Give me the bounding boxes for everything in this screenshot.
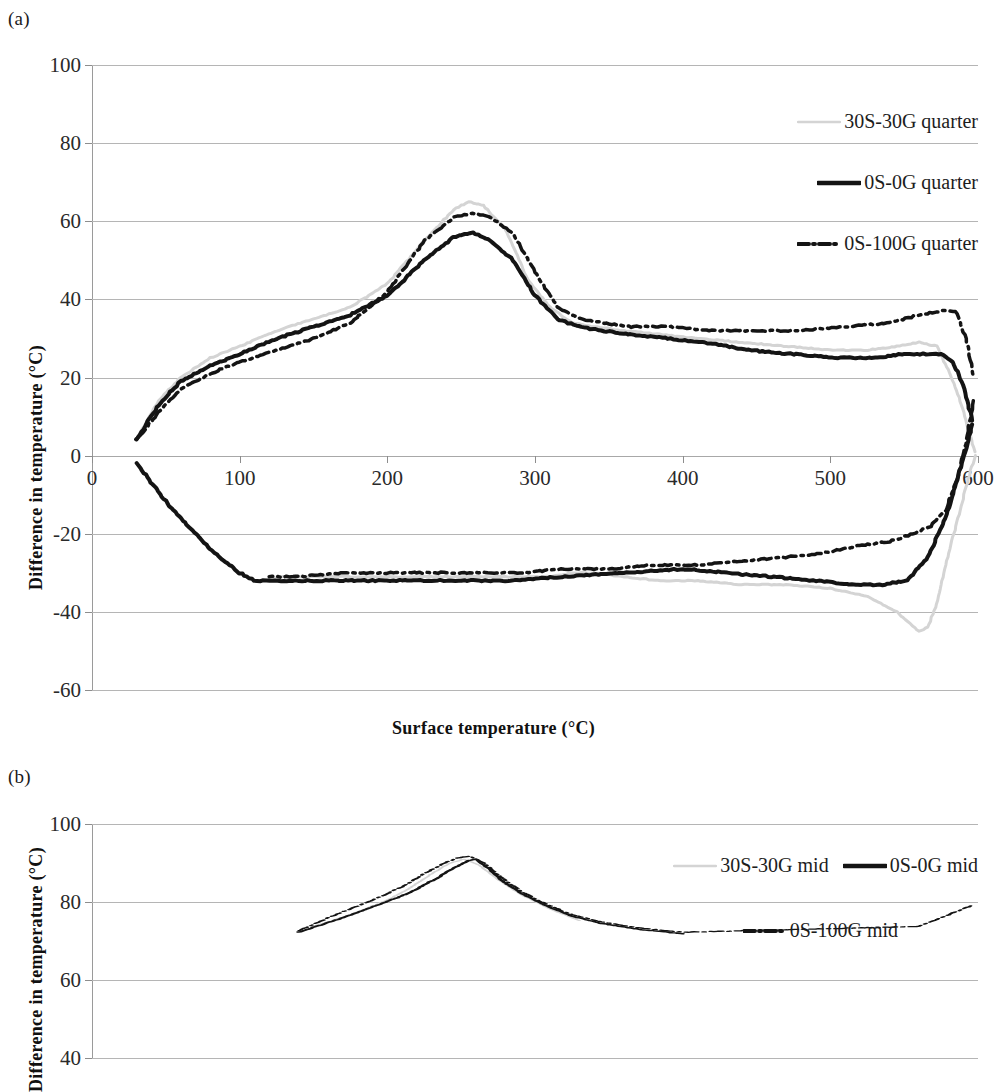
chart-panel-b: Difference in temperature (°C) 100806040… [0,792,987,1058]
y-tick-label: 60 [60,209,81,234]
y-tick-mark [85,221,92,222]
legend-label: 0S-100G mid [790,919,898,942]
y-tick-label: 80 [60,890,81,915]
y-tick-mark [85,456,92,457]
legend-row: 0S-100G quarter [797,232,978,255]
y-tick-mark [85,1058,92,1059]
y-tick-label: -40 [53,599,81,624]
legend-row: 30S-30G mid0S-0G mid [673,854,978,877]
y-tick-label: -60 [53,678,81,703]
y-tick-label: -20 [53,521,81,546]
legend-line-icon [797,115,841,129]
y-tick-mark [85,690,92,691]
y-tick-mark [85,65,92,66]
x-axis-title-a: Surface temperature (°C) [0,718,987,739]
legend-row: 0S-100G mid [673,919,978,942]
gridline [92,690,978,691]
y-tick-mark [85,378,92,379]
legend-line-icon [843,859,887,873]
series-path-30s-30g-mid [313,859,579,926]
legend-label: 30S-30G mid [720,854,828,877]
legend-label: 0S-100G quarter [844,232,978,255]
legend-entry-1[interactable]: 0S-0G quarter [817,171,978,194]
y-tick-mark [85,902,92,903]
y-tick-mark [85,143,92,144]
y-tick-label: 100 [50,812,82,837]
y-tick-label: 80 [60,131,81,156]
y-tick-mark [85,299,92,300]
legend-label: 0S-0G quarter [864,171,978,194]
y-tick-label: 60 [60,968,81,993]
chart-panel-a: Difference in temperature (°C) -60-40-20… [0,30,987,740]
gridline [92,1058,978,1059]
legend-b: 30S-30G mid0S-0G mid0S-100G mid [673,854,978,942]
series-path-0s-100g-quarter [269,401,973,578]
y-tick-mark [85,824,92,825]
y-tick-mark [85,534,92,535]
y-tick-mark [85,980,92,981]
legend-line-icon [743,924,787,938]
legend-entry-2[interactable]: 0S-100G quarter [797,232,978,255]
y-tick-label: 40 [60,287,81,312]
legend-row: 0S-0G quarter [797,171,978,194]
y-tick-label: 40 [60,1046,81,1071]
y-tick-label: 100 [50,53,82,78]
y-tick-mark [85,612,92,613]
legend-row: 30S-30G quarter [797,110,978,133]
legend-entry-0[interactable]: 30S-30G quarter [797,110,978,133]
y-tick-label: 0 [71,443,82,468]
y-axis-title-a: Difference in temperature (°C) [26,345,47,590]
legend-label: 30S-30G quarter [844,110,978,133]
legend-entry-2[interactable]: 0S-100G mid [743,919,898,942]
x-tick-mark [978,456,979,463]
y-axis-title-b: Difference in temperature (°C) [26,847,47,1092]
panel-b-label: (b) [8,766,31,788]
legend-entry-0[interactable]: 30S-30G mid [673,854,828,877]
legend-entry-1[interactable]: 0S-0G mid [843,854,978,877]
legend-a: 30S-30G quarter0S-0G quarter0S-100G quar… [797,110,978,293]
series-path-0s-0g-mid [298,859,683,934]
y-tick-label: 20 [60,365,81,390]
legend-line-icon [817,176,861,190]
legend-line-icon [673,859,717,873]
legend-line-icon [797,237,841,251]
legend-label: 0S-0G mid [890,854,978,877]
series-path-0s-0g-quarter [137,424,972,585]
panel-a-label: (a) [8,8,30,30]
